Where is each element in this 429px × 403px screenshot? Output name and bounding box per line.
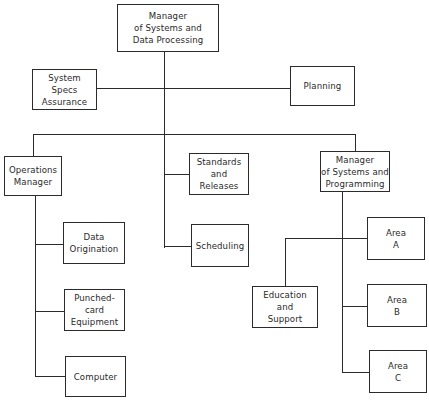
box-label: Operations Manager xyxy=(9,164,57,188)
box-label: Planning xyxy=(304,80,342,92)
connector-root-down xyxy=(164,52,165,248)
box-label: Standards and Releases xyxy=(197,156,241,192)
box-area-c: Area C xyxy=(369,350,427,393)
box-manager-systems-data-processing: Manager of Systems and Data Processing xyxy=(117,4,219,52)
box-label: Area C xyxy=(388,360,408,384)
box-label: Computer xyxy=(74,371,118,383)
box-data-origination: Data Origination xyxy=(63,222,125,264)
connector-ops-spine xyxy=(35,196,36,377)
connector-scheduling xyxy=(164,246,191,247)
box-punched-card-equipment: Punched- card Equipment xyxy=(64,289,125,331)
connector-standards xyxy=(164,174,189,175)
box-label: Manager of Systems and Programming xyxy=(321,154,389,190)
box-label: Education and Support xyxy=(263,289,307,325)
box-manager-systems-programming: Manager of Systems and Programming xyxy=(320,151,390,192)
box-label: Area A xyxy=(386,227,406,251)
box-label: Area B xyxy=(387,294,407,318)
connector-area-c xyxy=(342,372,369,373)
box-system-specs-assurance: System Specs Assurance xyxy=(32,69,97,110)
connector-msp-spine xyxy=(342,192,343,373)
box-planning: Planning xyxy=(290,66,355,106)
connector-msp-drop xyxy=(355,134,356,151)
box-label: System Specs Assurance xyxy=(42,72,87,108)
connector-data-origination xyxy=(35,244,63,245)
connector-area-b xyxy=(342,306,367,307)
box-area-a: Area A xyxy=(367,217,425,260)
box-operations-manager: Operations Manager xyxy=(4,156,62,196)
connector-education xyxy=(285,238,286,286)
connector-staff xyxy=(97,88,290,89)
connector-ops-drop xyxy=(33,134,34,156)
connector-punched-card xyxy=(35,311,64,312)
box-label: Data Origination xyxy=(70,231,119,255)
connector-area-a xyxy=(285,238,367,239)
box-computer: Computer xyxy=(65,356,126,397)
box-label: Scheduling xyxy=(196,240,245,252)
box-label: Punched- card Equipment xyxy=(71,292,119,328)
box-label: Manager of Systems and Data Processing xyxy=(133,10,204,46)
box-education-support: Education and Support xyxy=(252,286,318,328)
box-standards-releases: Standards and Releases xyxy=(189,153,249,195)
connector-computer xyxy=(35,376,65,377)
box-area-b: Area B xyxy=(367,284,427,327)
box-scheduling: Scheduling xyxy=(191,224,249,267)
connector-divisions xyxy=(33,134,355,135)
